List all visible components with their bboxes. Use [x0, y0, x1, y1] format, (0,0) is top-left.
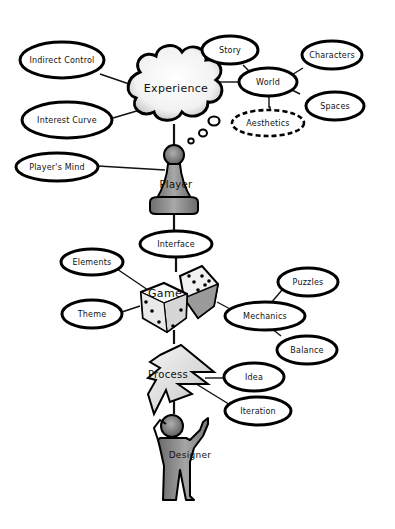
- thought-bubbles: [188, 117, 219, 144]
- process-label: Process: [148, 369, 188, 380]
- node-label: World: [256, 78, 280, 87]
- node-story[interactable]: Story: [202, 36, 258, 64]
- node-iteration[interactable]: Iteration: [225, 397, 291, 425]
- node-balance[interactable]: Balance: [277, 336, 337, 364]
- node-label: Idea: [245, 373, 263, 382]
- node-label: Elements: [73, 258, 112, 267]
- node-theme[interactable]: Theme: [62, 300, 122, 328]
- node-label: Balance: [290, 346, 323, 355]
- player-label: Player: [160, 179, 194, 190]
- experience-label: Experience: [144, 82, 208, 95]
- node-label: Mechanics: [243, 312, 287, 321]
- node-mechanics[interactable]: Mechanics: [225, 302, 305, 330]
- node-label: Theme: [77, 310, 107, 319]
- designer-label: Designer: [169, 450, 212, 460]
- node-label: Spaces: [320, 102, 350, 111]
- game-label: Game: [148, 287, 182, 300]
- node-label: Interest Curve: [37, 116, 97, 125]
- designer-hub[interactable]: Designer: [154, 415, 211, 500]
- process-hub[interactable]: Process: [148, 345, 214, 414]
- node-label: Iteration: [240, 407, 276, 416]
- player-hub[interactable]: Player: [150, 145, 198, 214]
- node-spaces[interactable]: Spaces: [306, 92, 364, 120]
- game-hub[interactable]: Game: [141, 266, 218, 332]
- node-interest-curve[interactable]: Interest Curve: [22, 102, 112, 138]
- node-players-mind[interactable]: Player's Mind: [16, 153, 98, 181]
- node-label: Player's Mind: [29, 163, 85, 172]
- node-interface[interactable]: Interface: [140, 231, 212, 257]
- node-label: Interface: [157, 240, 195, 249]
- node-label: Story: [219, 46, 241, 55]
- node-label: Puzzles: [293, 278, 324, 287]
- mind-map-diagram: Experience Indirect Control Interest Cur…: [0, 0, 395, 529]
- node-indirect-control[interactable]: Indirect Control: [20, 42, 104, 78]
- node-label: Aesthetics: [246, 119, 289, 128]
- node-idea[interactable]: Idea: [224, 363, 284, 391]
- node-aesthetics[interactable]: Aesthetics: [232, 110, 304, 136]
- node-characters[interactable]: Characters: [302, 41, 362, 69]
- node-label: Characters: [309, 51, 355, 60]
- node-label: Indirect Control: [30, 56, 95, 65]
- node-puzzles[interactable]: Puzzles: [278, 268, 338, 296]
- node-world[interactable]: World: [239, 68, 297, 96]
- node-elements[interactable]: Elements: [61, 249, 123, 275]
